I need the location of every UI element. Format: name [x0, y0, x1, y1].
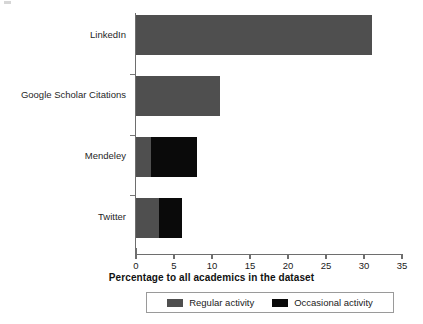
x-axis-tick-20: [287, 254, 288, 259]
x-axis-label-20: 20: [283, 260, 294, 271]
x-axis-label-15: 15: [245, 260, 256, 271]
plot-area: [136, 14, 402, 255]
bar-twitter: [136, 198, 182, 238]
legend-label-regular-activity: Regular activity: [189, 297, 254, 308]
y-axis-label-linkedin: LinkedIn: [90, 29, 126, 40]
x-axis-label-35: 35: [397, 260, 408, 271]
x-axis-label-25: 25: [321, 260, 332, 271]
x-axis-title: Percentage to all academics in the datas…: [0, 272, 423, 283]
legend-swatch-occasional-activity: [272, 299, 288, 307]
x-axis-label-5: 5: [171, 260, 176, 271]
legend-item-regular-activity: Regular activity: [167, 297, 254, 308]
bar-mendeley: [136, 137, 197, 177]
legend-swatch-regular-activity: [167, 299, 183, 307]
x-axis-label-10: 10: [207, 260, 218, 271]
y-axis-label-mendeley: Mendeley: [85, 150, 126, 161]
x-axis-label-30: 30: [359, 260, 370, 271]
x-axis-label-0: 0: [133, 260, 138, 271]
bar-linkedin: [136, 15, 372, 55]
bar-segment-regular: [136, 198, 159, 238]
x-axis-tick-35: [401, 254, 402, 259]
bar-chart: LinkedIn Google Scholar Citations Mendel…: [0, 0, 423, 324]
legend-item-occasional-activity: Occasional activity: [272, 297, 373, 308]
x-axis-tick-0: [135, 254, 136, 259]
y-axis-label-google-scholar-citations: Google Scholar Citations: [21, 89, 126, 100]
x-axis-tick-30: [363, 254, 364, 259]
legend-label-occasional-activity: Occasional activity: [294, 297, 373, 308]
x-axis-tick-25: [325, 254, 326, 259]
x-axis-tick-15: [249, 254, 250, 259]
x-axis-tick-5: [173, 254, 174, 259]
x-axis-tick-10: [211, 254, 212, 259]
bar-segment-regular: [136, 15, 372, 55]
bar-segment-regular: [136, 137, 151, 177]
bar-segment-regular: [136, 76, 220, 116]
bar-segment-occasional: [159, 198, 182, 238]
bar-segment-occasional: [151, 137, 197, 177]
y-axis-label-twitter: Twitter: [98, 211, 126, 222]
bar-google-scholar-citations: [136, 76, 220, 116]
legend: Regular activity Occasional activity: [146, 292, 394, 313]
